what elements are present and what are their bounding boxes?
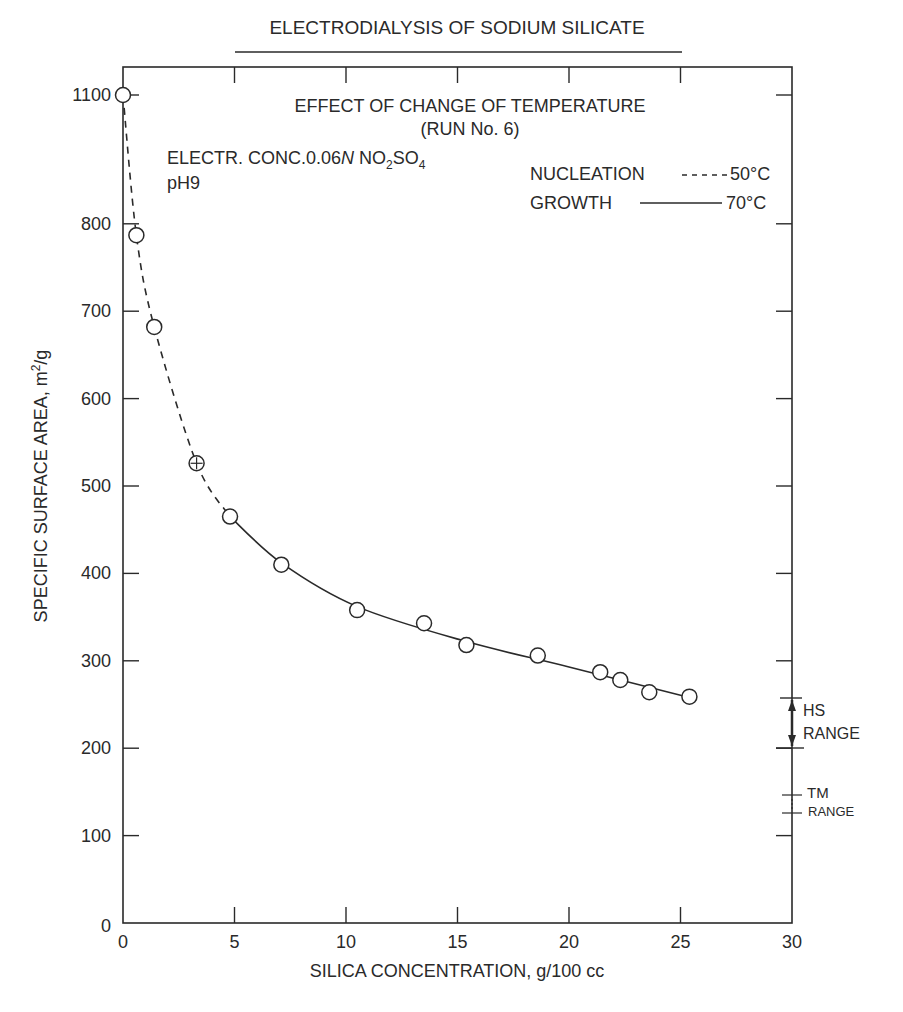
data-point-marker [274, 557, 289, 572]
y-tick-label: 100 [81, 826, 111, 846]
chart-subtitle: EFFECT OF CHANGE OF TEMPERATURE [294, 96, 645, 116]
data-point-marker [147, 319, 162, 334]
y-tick-label: 500 [81, 476, 111, 496]
y-tick-label: 800 [81, 214, 111, 234]
hs-range-label-1: HS [803, 702, 825, 719]
tm-range-label-1: TM [807, 784, 829, 801]
arrow-down-icon [788, 735, 796, 746]
chart-title: ELECTRODIALYSIS OF SODIUM SILICATE [269, 17, 644, 38]
hs-range-label-2: RANGE [803, 725, 860, 742]
legend-nucleation-label: NUCLEATION [530, 164, 645, 184]
tm-range-label-2: RANGE [808, 804, 855, 819]
x-axis: 051015202530 [118, 67, 802, 952]
x-axis-label: SILICA CONCENTRATION, g/100 cc [310, 961, 605, 981]
y-tick-label: 700 [81, 301, 111, 321]
legend-nucleation-temp: 50°C [730, 164, 770, 184]
electrolyte-label: ELECTR. CONC.0.06N NO2SO4 [167, 148, 426, 172]
ph-label: pH9 [167, 173, 200, 193]
legend: NUCLEATION 50°C GROWTH 70°C [530, 164, 770, 213]
data-point-marker [682, 689, 697, 704]
data-point-marker [223, 509, 238, 524]
growth-curve [230, 517, 689, 698]
y-axis-label: SPECIFIC SURFACE AREA, m2/g [29, 350, 51, 623]
y-tick-label: 200 [81, 738, 111, 758]
y-tick-label: 1100 [72, 85, 111, 105]
y-tick-label: 600 [81, 389, 111, 409]
hs-range-marker: HS RANGE [776, 698, 860, 748]
y-tick-label: 400 [81, 563, 111, 583]
y-tick-label: 300 [81, 651, 111, 671]
chart: ELECTRODIALYSIS OF SODIUM SILICATE 05101… [0, 0, 903, 1012]
x-tick-label: 0 [118, 932, 128, 952]
x-tick-label: 5 [229, 932, 239, 952]
data-point-marker [129, 228, 144, 243]
data-point-marker [642, 685, 657, 700]
x-tick-label: 20 [559, 932, 579, 952]
data-point-marker [613, 673, 628, 688]
x-tick-label: 25 [670, 932, 690, 952]
arrow-up-icon [788, 700, 796, 711]
data-point-marker [350, 603, 365, 618]
y-axis: 01002003004005006007008001100 [72, 85, 792, 936]
legend-growth-label: GROWTH [530, 193, 612, 213]
legend-growth-temp: 70°C [726, 193, 766, 213]
data-point-marker [459, 638, 474, 653]
data-point-marker [417, 616, 432, 631]
run-label: (RUN No. 6) [420, 119, 519, 139]
x-tick-label: 15 [447, 932, 467, 952]
x-tick-label: 10 [336, 932, 356, 952]
data-point-marker [593, 665, 608, 680]
y-tick-label: 0 [101, 916, 111, 936]
data-point-marker [116, 88, 131, 103]
tm-range-marker: TM RANGE [782, 784, 855, 819]
x-tick-label: 30 [782, 932, 802, 952]
plot-frame [123, 67, 792, 923]
data-point-marker [530, 648, 545, 663]
